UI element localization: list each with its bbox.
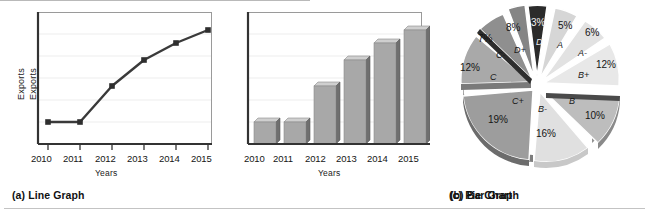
panel-line-graph: Exports [0, 0, 218, 223]
line-graph-tick-2015: 2015 [191, 153, 212, 164]
bar-graph-y-axis-title: Exports [28, 68, 38, 100]
pie-label-A-minus: A- [578, 48, 587, 58]
pie-pct-D: 3% [531, 17, 545, 28]
bar-graph-series [254, 26, 430, 144]
line-graph-tick-2012: 2012 [95, 153, 116, 164]
bar-2014 [374, 39, 400, 144]
line-graph-series [48, 30, 208, 122]
line-graph-tick-2013: 2013 [127, 153, 148, 164]
pie-label-B-minus: B- [538, 104, 547, 114]
bar-graph-tick-2013: 2013 [336, 153, 357, 164]
bar-graph-tick-2014: 2014 [367, 153, 388, 164]
bar-graph-tick-2010: 2010 [244, 153, 265, 164]
bottom-divider [4, 208, 645, 209]
pie-label-D-plus: D+ [514, 45, 526, 55]
bar-graph-tick-2011: 2011 [273, 153, 293, 164]
bar-graph-x-axis-title: Years [318, 168, 340, 178]
pie-pct-C-plus: 19% [488, 114, 508, 125]
pie-label-C: C [490, 72, 497, 82]
figure-root: Exports [0, 0, 649, 223]
bar-2012 [314, 82, 340, 144]
line-graph-x-axis-title: Years [95, 168, 117, 178]
panel-bar-graph: Exports [218, 0, 430, 223]
pie-pct-B-minus: 16% [536, 128, 556, 139]
pie-pct-A: 5% [558, 20, 572, 31]
bar-2015 [404, 26, 430, 144]
panel-pie-chart: D A A- B+ B B- C+ C C- D+ 3% 5% 6% 12% 1… [430, 0, 649, 180]
pie-pct-C-minus: 7% [478, 33, 492, 44]
pie-pct-D-plus: 8% [506, 22, 520, 33]
line-graph-gridlines [38, 34, 211, 122]
pie-chart-caption: (c) Pie Chart [449, 189, 512, 201]
line-graph-tick-2014: 2014 [159, 153, 180, 164]
pie-label-C-minus: C- [496, 50, 506, 60]
bar-graph-tick-2015: 2015 [398, 153, 419, 164]
pie-pct-B: 10% [585, 110, 605, 121]
bar-graph-tick-2012: 2012 [305, 153, 326, 164]
pie-pct-C: 12% [460, 62, 480, 73]
pie-label-A: A [557, 40, 563, 50]
bar-2010 [254, 118, 280, 144]
line-graph-tick-2010: 2010 [31, 153, 52, 164]
bar-2011 [284, 118, 310, 144]
line-graph-tick-2011: 2011 [63, 153, 83, 164]
line-graph-markers [45, 27, 211, 125]
pie-pct-A-minus: 6% [585, 27, 599, 38]
line-graph-caption: (a) Line Graph [12, 189, 85, 201]
pie-label-B: B [569, 96, 575, 106]
bar-2013 [344, 56, 370, 144]
pie-label-D: D [536, 37, 543, 47]
pie-label-C-plus: C+ [512, 96, 524, 106]
pie-pct-B-plus: 12% [596, 59, 616, 70]
pie-label-B-plus: B+ [578, 70, 589, 80]
